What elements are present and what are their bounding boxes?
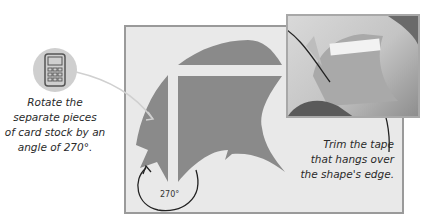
- calculator-badge: [33, 48, 77, 92]
- tape-trimming-photo: [286, 14, 420, 118]
- rotate-caption-line: angle of 270°.: [0, 140, 110, 155]
- left-shape-piece: [136, 75, 168, 182]
- photo-content: [288, 16, 420, 118]
- rotate-caption-line: of card stock by an: [0, 125, 110, 140]
- trim-caption: Trim the tape that hangs over the shape'…: [288, 137, 394, 182]
- rotate-caption-line: Rotate the: [0, 95, 110, 110]
- top-shape-piece: [178, 40, 282, 65]
- rotate-caption-line: separate pieces: [0, 110, 110, 125]
- angle-label: 270°: [160, 190, 179, 199]
- main-shape-piece: [178, 76, 285, 182]
- calculator-icon: [33, 48, 77, 92]
- trim-caption-line: that hangs over: [288, 152, 394, 167]
- rotate-caption: Rotate the separate pieces of card stock…: [0, 95, 110, 155]
- trim-caption-line: Trim the tape: [288, 137, 394, 152]
- trim-caption-line: the shape's edge.: [288, 167, 394, 182]
